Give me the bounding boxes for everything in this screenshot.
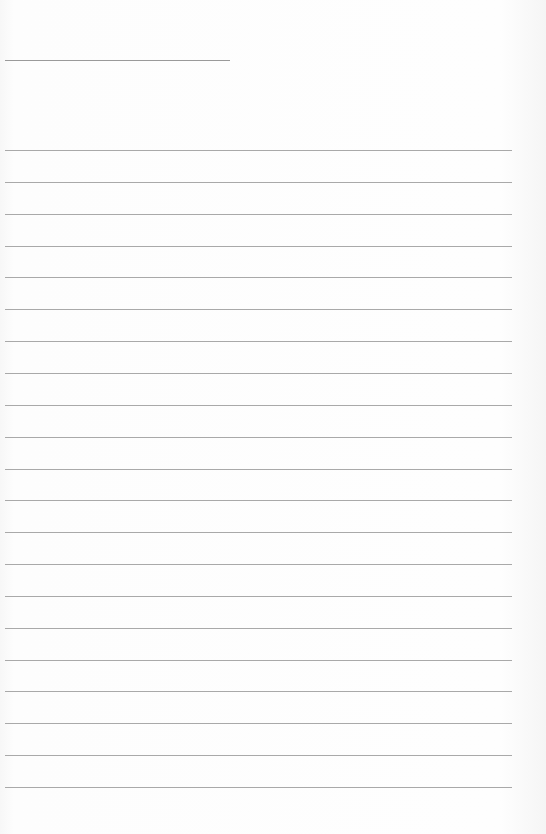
ruled-line — [5, 628, 512, 629]
ruled-line — [5, 596, 512, 597]
ruled-line — [5, 405, 512, 406]
ruled-line — [5, 787, 512, 788]
ruled-line — [5, 150, 512, 151]
ruled-line — [5, 309, 512, 310]
ruled-line — [5, 373, 512, 374]
ruled-line — [5, 214, 512, 215]
ruled-line — [5, 182, 512, 183]
lined-paper-page — [0, 0, 546, 834]
title-write-line — [5, 60, 230, 61]
ruled-line — [5, 564, 512, 565]
ruled-line — [5, 691, 512, 692]
ruled-line — [5, 532, 512, 533]
ruled-line — [5, 755, 512, 756]
ruled-line — [5, 500, 512, 501]
ruled-line — [5, 246, 512, 247]
ruled-line — [5, 437, 512, 438]
ruled-line — [5, 660, 512, 661]
ruled-line — [5, 723, 512, 724]
ruled-line — [5, 277, 512, 278]
ruled-line — [5, 341, 512, 342]
ruled-line — [5, 469, 512, 470]
